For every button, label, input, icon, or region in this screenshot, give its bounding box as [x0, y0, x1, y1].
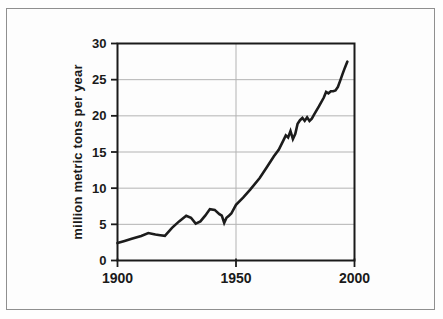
chart-figure: 051015202530190019502000 million metric …	[0, 0, 443, 319]
x-tick-label: 1950	[220, 270, 251, 286]
y-tick-label: 30	[92, 36, 106, 51]
y-tick-label: 10	[92, 181, 106, 196]
line-chart: 051015202530190019502000	[0, 0, 443, 319]
x-tick-label: 2000	[339, 270, 370, 286]
y-tick-label: 25	[92, 72, 106, 87]
y-tick-label: 15	[92, 145, 106, 160]
x-tick-label: 1900	[102, 270, 133, 286]
y-tick-label: 5	[99, 217, 106, 232]
y-axis-title: million metric tons per year	[70, 42, 88, 262]
y-tick-label: 20	[92, 108, 106, 123]
y-tick-label: 0	[99, 253, 106, 268]
